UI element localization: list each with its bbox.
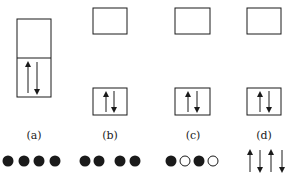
filled-circle-icon bbox=[166, 156, 177, 167]
filled-circle-icon bbox=[3, 156, 14, 167]
bottom-row-d bbox=[250, 150, 282, 172]
panel-label-a: (a) bbox=[26, 129, 41, 142]
band-diagram-figure: (a) (b) (c) (d) bbox=[0, 0, 295, 178]
upper-band-box bbox=[175, 8, 210, 34]
panel-label-c: (c) bbox=[186, 129, 201, 142]
filled-circle-icon bbox=[115, 156, 126, 167]
panel-b bbox=[93, 8, 127, 115]
bottom-row-b bbox=[80, 156, 141, 167]
open-circle-icon bbox=[208, 156, 218, 166]
filled-circle-icon bbox=[34, 156, 45, 167]
panel-d bbox=[247, 8, 281, 115]
bottom-row-a bbox=[3, 156, 61, 167]
upper-band-box bbox=[93, 8, 127, 34]
bottom-row-c bbox=[166, 156, 219, 167]
lower-band-box bbox=[247, 88, 281, 115]
open-circle-icon bbox=[180, 156, 190, 166]
lower-band-box bbox=[93, 88, 127, 115]
panel-a bbox=[17, 19, 51, 97]
filled-circle-icon bbox=[130, 156, 141, 167]
upper-band-box bbox=[247, 8, 281, 34]
lower-band-box bbox=[175, 88, 210, 115]
panel-c bbox=[175, 8, 210, 115]
filled-circle-icon bbox=[80, 156, 91, 167]
filled-circle-icon bbox=[50, 156, 61, 167]
filled-circle-icon bbox=[19, 156, 30, 167]
panel-label-d: (d) bbox=[256, 129, 272, 142]
filled-circle-icon bbox=[194, 156, 205, 167]
panel-label-b: (b) bbox=[102, 129, 118, 142]
filled-circle-icon bbox=[94, 156, 105, 167]
